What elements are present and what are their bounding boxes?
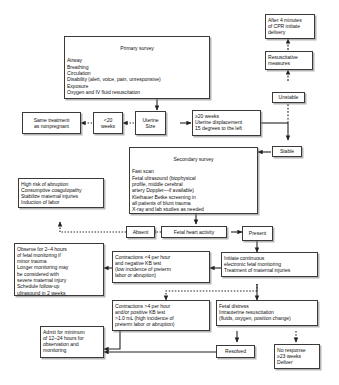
node-resolved: Resolved — [216, 345, 255, 358]
primary-survey-header: Primary survey — [67, 45, 207, 51]
node-uterine-size: Uterine Size — [135, 111, 166, 135]
node-fetal-distress: Fetal distress Intrauterine resuscitatio… — [216, 300, 318, 326]
node-high-risk-of-abruption: High risk of abruption Consumptive coagu… — [18, 178, 104, 208]
primary-survey-body: Airway Breathing Circulation Disability … — [67, 57, 207, 95]
node-over-20-weeks: ≥20 weeks Uterine displacement 15 degree… — [192, 110, 261, 136]
node-secondary-survey: Secondary survey Fast scan Fetal ultraso… — [129, 147, 258, 214]
flowchart-canvas: Primary survey Airway Breathing Circulat… — [0, 0, 339, 385]
node-cpr-delivery: After 4 minutes of CPR initiate delivery — [265, 14, 315, 39]
secondary-survey-body: Fast scan Fetal ultrasound (biophysical … — [132, 168, 255, 212]
node-contractions-under-4-per-hour: Contractions <4 per hour and negative KB… — [112, 251, 210, 283]
node-initiate-continuous-monitoring: Initiate continuous electronic fetal mon… — [221, 252, 318, 277]
node-under-20-weeks: <20 weeks — [93, 112, 123, 134]
node-observe-2-4-hours: Observe for 2–4 hours of fetal monitorin… — [14, 243, 104, 296]
node-no-response-deliver: No response ≥23 weeks Deliver — [274, 344, 320, 369]
node-same-treatment-as-nonpregnant: Same treatment as nonpregnant — [22, 112, 81, 134]
node-contractions-over-4-per-hour: Contractions >4 per hour and/or positive… — [112, 300, 210, 331]
node-admit-for-minimum: Admit for minimum of 12–24 hours for obs… — [40, 326, 104, 358]
node-unstable: Unstable — [272, 92, 305, 103]
node-fetal-heart-activity: Fetal heart activity — [161, 226, 227, 238]
secondary-survey-header: Secondary survey — [132, 156, 255, 162]
node-absent: Absent — [126, 226, 155, 238]
node-resuscitative-measures: Resuscitative measures — [265, 51, 313, 70]
node-present: Present — [242, 226, 273, 241]
node-stable: Stable — [272, 146, 302, 157]
node-primary-survey: Primary survey Airway Breathing Circulat… — [64, 36, 210, 99]
